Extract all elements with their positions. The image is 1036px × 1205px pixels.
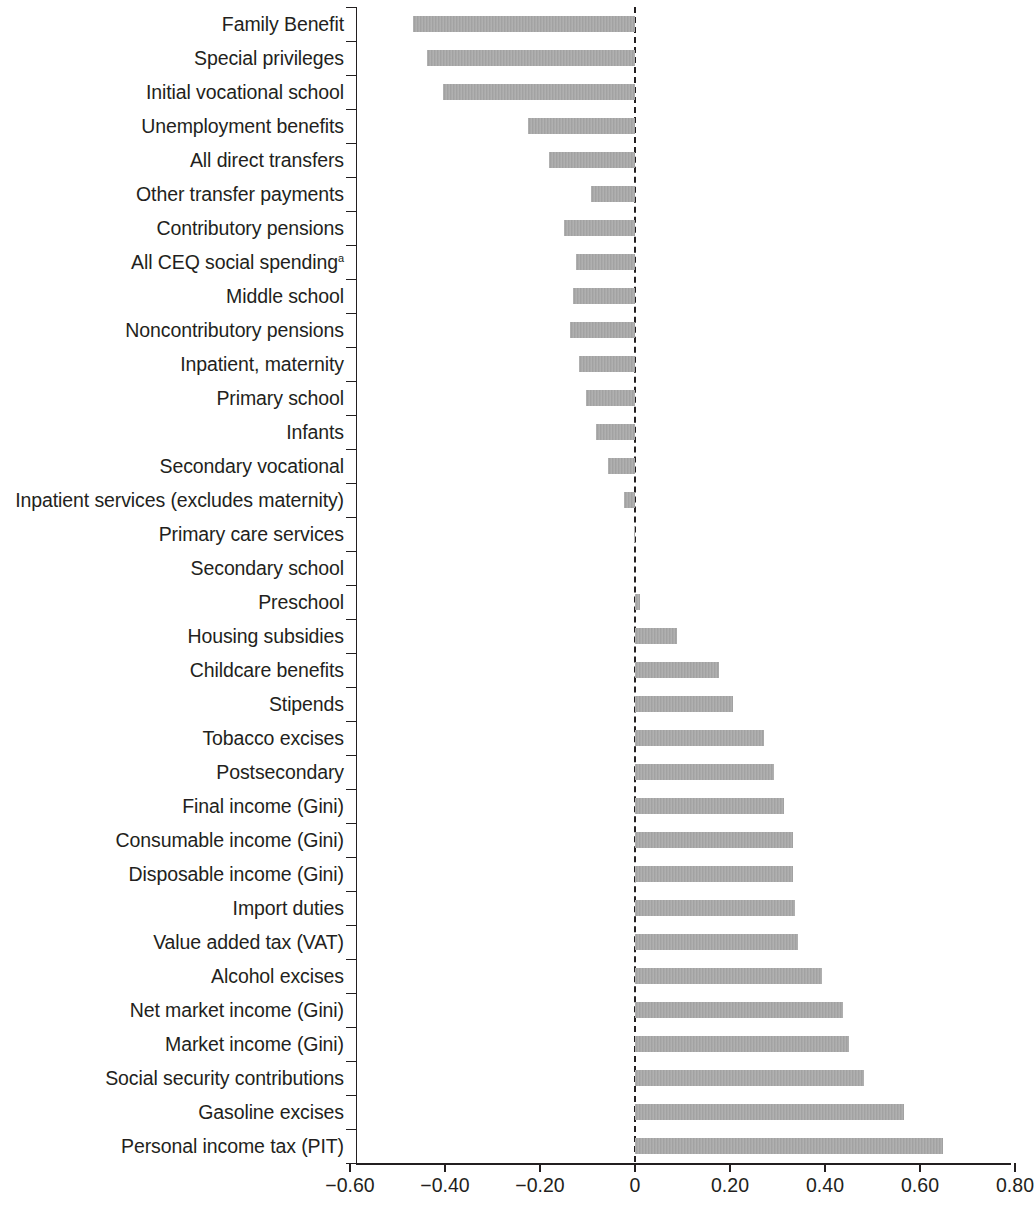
x-axis-tick [349, 1163, 351, 1172]
y-axis-tick [346, 449, 357, 450]
y-axis-tick [346, 245, 357, 246]
bar-row: Secondary school [0, 551, 1036, 585]
bar-row: Family Benefit [0, 7, 1036, 41]
y-axis-tick [346, 211, 357, 212]
category-label: Inpatient services (excludes maternity) [15, 483, 344, 517]
bar-row: Consumable income (Gini) [0, 823, 1036, 857]
y-axis-tick [346, 177, 357, 178]
y-axis-tick [346, 381, 357, 382]
bar-row: Market income (Gini) [0, 1027, 1036, 1061]
category-label: Inpatient, maternity [180, 347, 344, 381]
category-label: Import duties [233, 891, 344, 925]
x-axis-tick [1014, 1163, 1016, 1172]
bar [528, 118, 635, 134]
y-axis-tick [346, 1129, 357, 1130]
bar [635, 662, 719, 678]
x-axis-tick-label: 0.40 [806, 1174, 844, 1197]
y-axis-tick [346, 857, 357, 858]
x-axis-tick [919, 1163, 921, 1172]
category-label: Alcohol excises [211, 959, 344, 993]
bar [413, 16, 635, 32]
y-axis-tick [346, 619, 357, 620]
category-label: Primary school [216, 381, 344, 415]
bar [635, 730, 764, 746]
bar [635, 798, 784, 814]
category-label: Market income (Gini) [165, 1027, 344, 1061]
bar [635, 866, 793, 882]
bar-row: Infants [0, 415, 1036, 449]
bar-row: Contributory pensions [0, 211, 1036, 245]
bar-row: Noncontributory pensions [0, 313, 1036, 347]
bar-row: Primary care services [0, 517, 1036, 551]
y-axis-tick [346, 313, 357, 314]
bar-row: Inpatient, maternity [0, 347, 1036, 381]
category-label: Special privileges [194, 41, 344, 75]
bar [564, 220, 635, 236]
category-label: Consumable income (Gini) [116, 823, 344, 857]
bar-row: All direct transfers [0, 143, 1036, 177]
bar [427, 50, 635, 66]
bar [635, 934, 798, 950]
y-axis-tick [346, 891, 357, 892]
category-label: Childcare benefits [190, 653, 344, 687]
x-axis-tick-label: 0.80 [996, 1174, 1034, 1197]
x-axis-tick [539, 1163, 541, 1172]
bar [624, 492, 635, 508]
y-axis-tick [346, 7, 357, 8]
y-axis-tick [346, 721, 357, 722]
y-axis-tick [346, 415, 357, 416]
y-axis-tick [346, 755, 357, 756]
category-label: Noncontributory pensions [125, 313, 344, 347]
category-label: Secondary school [191, 551, 344, 585]
bar [635, 1138, 943, 1154]
y-axis-tick [346, 109, 357, 110]
y-axis-tick [346, 279, 357, 280]
bar [635, 900, 795, 916]
y-axis-tick [346, 993, 357, 994]
bar-row: Net market income (Gini) [0, 993, 1036, 1027]
y-axis-tick [346, 1095, 357, 1096]
bar [635, 832, 793, 848]
bar [570, 322, 635, 338]
category-label: Stipends [269, 687, 344, 721]
category-label: Secondary vocational [160, 449, 344, 483]
footnote-marker: a [338, 252, 344, 264]
category-label: Personal income tax (PIT) [121, 1129, 344, 1163]
category-label: Unemployment benefits [141, 109, 344, 143]
bar-row: Disposable income (Gini) [0, 857, 1036, 891]
bar [573, 288, 635, 304]
bar [635, 1070, 864, 1086]
bar [635, 1036, 849, 1052]
x-axis-tick [444, 1163, 446, 1172]
bar-row: Import duties [0, 891, 1036, 925]
bar [635, 696, 733, 712]
y-axis-tick [346, 41, 357, 42]
category-label: Primary care services [159, 517, 344, 551]
bar-row: Postsecondary [0, 755, 1036, 789]
category-label: Value added tax (VAT) [153, 925, 344, 959]
bar-row: Other transfer payments [0, 177, 1036, 211]
bar-row: Initial vocational school [0, 75, 1036, 109]
bar-row: Unemployment benefits [0, 109, 1036, 143]
x-axis-tick [824, 1163, 826, 1172]
y-axis-tick [346, 789, 357, 790]
concentration-coefficient-bar-chart: Family BenefitSpecial privilegesInitial … [0, 0, 1036, 1205]
y-axis-tick [346, 959, 357, 960]
category-label: All direct transfers [190, 143, 344, 177]
bar [596, 424, 635, 440]
x-axis-tick-label: 0.60 [901, 1174, 939, 1197]
bar [443, 84, 635, 100]
bar [635, 968, 822, 984]
bar-row: Primary school [0, 381, 1036, 415]
bar-row: Preschool [0, 585, 1036, 619]
x-axis-tick-label: 0.20 [711, 1174, 749, 1197]
y-axis-tick [346, 551, 357, 552]
category-label: Net market income (Gini) [130, 993, 344, 1027]
bar [635, 1104, 904, 1120]
x-axis-tick-label: −0.40 [420, 1174, 469, 1197]
category-label: Postsecondary [216, 755, 344, 789]
bar-row: Gasoline excises [0, 1095, 1036, 1129]
category-label: Other transfer payments [136, 177, 344, 211]
bar [634, 526, 635, 542]
category-label: All CEQ social spendinga [131, 245, 344, 279]
